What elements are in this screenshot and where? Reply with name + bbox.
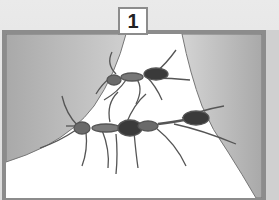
panel-number-label: 1 [118,7,148,35]
ant-bridge-illustration [6,34,262,198]
adjacent-panel-edge [266,30,279,200]
illustration-panel [2,30,266,200]
